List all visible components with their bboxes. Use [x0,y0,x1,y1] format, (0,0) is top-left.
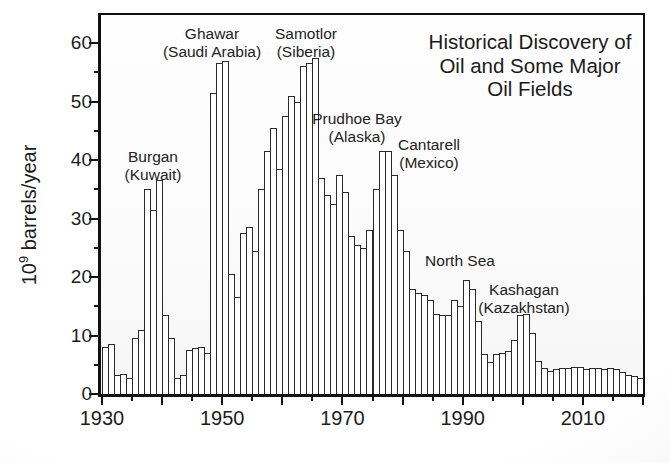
x-major-tick-2000 [522,397,524,405]
chart-title-line1: Historical Discovery of [429,30,632,54]
annotation-burgan: Burgan(Kuwait) [125,148,182,183]
annotation-prudhoe-bay: Prudhoe Bay(Alaska) [312,110,402,145]
annotation-cantarell: Cantarell(Mexico) [398,136,460,171]
annotation-kashagan-line: (Kazakhstan) [478,299,569,317]
y-minor-tick-35 [94,188,98,190]
x-minor-tick-1975 [372,397,374,401]
annotation-kashagan-line: Kashagan [478,281,569,299]
annotation-ghawar-line: Ghawar [163,25,261,43]
y-tick-label-10: 10 [56,325,92,347]
y-axis-title-base: 10 [18,263,40,285]
plot-top-border [98,13,645,15]
y-axis-line [98,13,101,397]
y-tick-label-30: 30 [56,208,92,230]
plot-right-border [643,13,645,394]
x-major-tick-1960 [281,397,283,405]
x-tick-label-1990: 1990 [433,407,493,430]
y-axis-title: 109 barrels/year [16,97,44,333]
x-minor-tick-1985 [432,397,434,401]
y-tick-label-40: 40 [56,149,92,171]
y-minor-tick-45 [94,130,98,132]
x-tick-label-1950: 1950 [192,407,252,430]
x-major-tick-1980 [402,397,404,405]
annotation-cantarell-line: (Mexico) [398,154,460,172]
x-minor-tick-2015 [612,397,614,401]
y-axis-title-units: barrels/year [18,145,40,256]
x-minor-tick-1965 [311,397,313,401]
x-minor-tick-1945 [191,397,193,401]
chart-title: Historical Discovery of Oil and Some Maj… [429,30,632,101]
x-minor-tick-2005 [552,397,554,401]
x-tick-label-2010: 2010 [553,407,613,430]
x-major-tick-2010 [582,397,584,405]
oil-discovery-chart: 010203040506019301950197019902010 Histor… [0,0,670,463]
y-axis-title-exponent: 9 [16,256,31,263]
x-minor-tick-1955 [251,397,253,401]
y-tick-label-60: 60 [56,32,92,54]
annotation-samotlor-line: (Siberia) [275,43,337,61]
x-tick-label-1970: 1970 [312,407,372,430]
x-major-tick-1950 [221,397,223,405]
x-major-tick-1930 [101,397,103,405]
y-tick-label-50: 50 [56,91,92,113]
x-tick-label-1930: 1930 [72,407,132,430]
y-tick-label-0: 0 [56,383,92,405]
chart-title-line2: Oil and Some Major [429,54,632,78]
x-minor-tick-1995 [492,397,494,401]
x-major-tick-1940 [161,397,163,405]
annotation-burgan-line: Burgan [125,148,182,166]
annotation-north-sea: North Sea [425,252,495,270]
x-major-tick-1990 [462,397,464,405]
y-minor-tick-25 [94,247,98,249]
y-tick-label-20: 20 [56,266,92,288]
annotation-samotlor: Samotlor(Siberia) [275,25,337,60]
annotation-ghawar-line: (Saudi Arabia) [163,43,261,61]
x-minor-tick-1935 [131,397,133,401]
annotation-ghawar: Ghawar(Saudi Arabia) [163,25,261,60]
x-major-tick-1970 [341,397,343,405]
annotation-burgan-line: (Kuwait) [125,166,182,184]
y-minor-tick-55 [94,71,98,73]
annotation-samotlor-line: Samotlor [275,25,337,43]
chart-title-line3: Oil Fields [429,77,632,101]
annotation-prudhoe-bay-line: Prudhoe Bay [312,110,402,128]
x-major-tick-2020 [642,397,644,405]
annotation-cantarell-line: Cantarell [398,136,460,154]
y-minor-tick-5 [94,364,98,366]
annotation-kashagan: Kashagan(Kazakhstan) [478,281,569,316]
annotation-north-sea-line: North Sea [425,252,495,270]
annotation-prudhoe-bay-line: (Alaska) [312,128,402,146]
y-minor-tick-15 [94,305,98,307]
